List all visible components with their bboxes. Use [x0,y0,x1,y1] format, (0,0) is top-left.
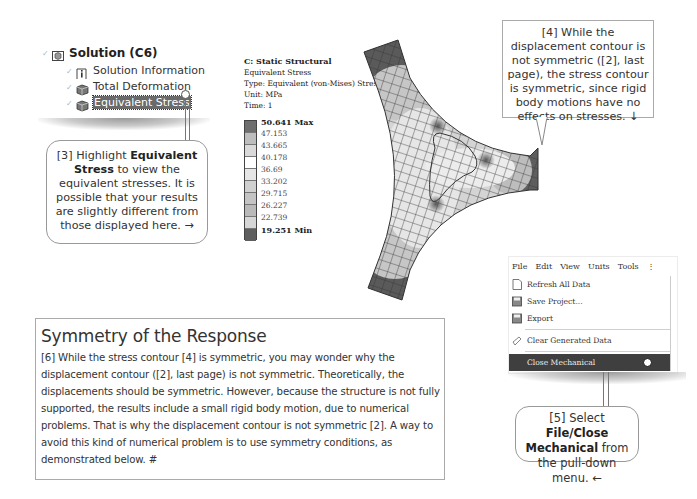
callout-leader [603,372,604,408]
file-dropdown: Refresh All Data Save Project... Export … [509,276,671,371]
pointer-dot-icon [643,358,652,367]
menu-overflow[interactable]: ⋮ [647,262,655,271]
panel-shadow [508,372,686,384]
legend-values: 50.641 Max 47.153 43.665 40.178 36.69 33… [261,116,313,236]
refresh-icon [512,279,522,290]
check-icon: ✓ [66,67,74,75]
menu-item-close-mechanical[interactable]: Close Mechanical [509,354,670,371]
tree-item-label: Solution (C6) [69,46,157,60]
section-title: Symmetry of the Response [41,325,440,347]
legend-min: 19.251 Min [261,224,313,236]
tree-item-solution-information[interactable]: ✓ Solution Information [66,64,205,77]
legend-swatch [245,205,256,217]
check-icon: ✓ [66,83,74,91]
save-icon [512,296,522,307]
result-cube-icon [76,97,89,109]
legend-swatch [245,193,256,205]
clear-icon [512,335,522,346]
legend-swatch [245,157,256,169]
check-icon: ✓ [66,99,74,107]
tree-item-label: Equivalent Stress [93,96,191,109]
callout-step-5: [5] Select File/Close Mechanical from th… [515,406,639,462]
legend-swatch [245,217,256,229]
legend-value: 26.227 [261,200,313,212]
callout-step-4: [4] While the displacement contour is no… [502,20,654,118]
legend-value: 47.153 [261,128,313,140]
solution-icon [52,47,65,59]
legend-value: 40.178 [261,152,313,164]
menu-units[interactable]: Units [588,262,610,271]
callout-text: [3] Highlight [57,149,130,162]
menu-view[interactable]: View [560,262,580,271]
callout-leader [189,100,190,140]
section-body: [6] While the stress contour [4] is symm… [41,349,440,468]
legend-max: 50.641 Max [261,116,313,128]
callout-text: [4] While the displacement contour is no… [507,26,648,123]
tree-item-total-deformation[interactable]: ✓ Total Deformation [66,80,191,93]
legend-value: 36.69 [261,164,313,176]
file-menu-panel: File Edit View Units Tools ⋮ Refresh All… [508,256,678,374]
menu-item-label: Refresh All Data [527,280,590,289]
menu-separator [525,351,670,352]
legend-value: 29.715 [261,188,313,200]
menu-item-save-project[interactable]: Save Project... [509,293,670,310]
tree-item-solution[interactable]: ✓ Solution (C6) [42,46,157,60]
legend-swatch [245,169,256,181]
check-icon: ✓ [42,49,50,57]
legend-color-bar [244,120,257,240]
callout-step-3: [3] Highlight Equivalent Stress to view … [46,140,208,244]
legend-value: 43.665 [261,140,313,152]
menu-tools[interactable]: Tools [618,262,639,271]
legend-value: 22.739 [261,212,313,224]
callout-leader [608,372,609,408]
menu-item-refresh-all-data[interactable]: Refresh All Data [509,276,670,293]
callout-leader [185,100,186,140]
symmetry-section: Symmetry of the Response [6] While the s… [35,318,445,480]
menu-item-label: Clear Generated Data [527,336,611,345]
result-cube-icon [76,81,89,93]
menu-item-label: Export [527,314,553,323]
legend-value: 33.202 [261,176,313,188]
menu-item-export[interactable]: Export [509,310,670,327]
menu-item-label: Close Mechanical [527,358,595,367]
menu-edit[interactable]: Edit [535,262,552,271]
menu-separator [525,329,670,330]
pointer-dot-icon [181,90,190,99]
legend-swatch [245,181,256,193]
menu-bar: File Edit View Units Tools ⋮ [509,257,677,275]
legend-swatch [245,133,256,145]
legend-swatch [245,121,256,133]
legend-swatch [245,145,256,157]
menu-item-clear-generated-data[interactable]: Clear Generated Data [509,332,670,349]
info-icon [76,65,89,77]
callout-text: [5] Select [549,411,604,425]
export-icon [512,313,522,324]
tree-item-label: Total Deformation [93,80,191,93]
menu-file[interactable]: File [512,262,527,271]
callout-emphasis: File/Close Mechanical [525,426,608,455]
callout-pointer [535,117,549,147]
menu-item-label: Save Project... [527,297,583,306]
tree-item-label: Solution Information [93,64,205,77]
tree-item-equivalent-stress[interactable]: ✓ Equivalent Stress [66,96,191,109]
legend-swatch [245,229,256,241]
